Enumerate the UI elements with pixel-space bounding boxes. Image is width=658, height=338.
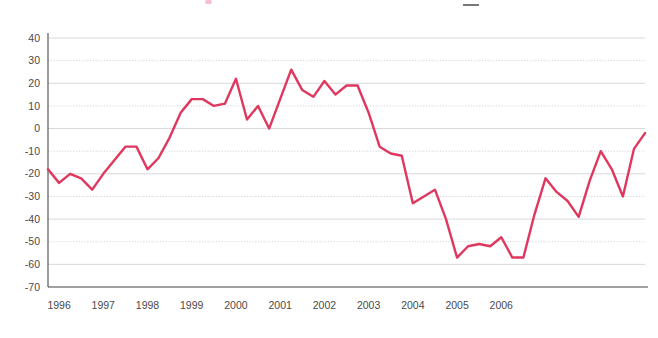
x-axis-tick-label: 1996 <box>47 299 71 311</box>
x-axis-tick-label: 1997 <box>92 299 116 311</box>
x-axis-tick-label: 2006 <box>490 299 514 311</box>
y-axis-tick-label: -50 <box>25 235 40 247</box>
x-axis-tick-label: 2004 <box>401 299 425 311</box>
y-axis-tick-label: -70 <box>25 281 40 293</box>
line-chart-plot: 403020100-10-20-30-40-50-60-70 199619971… <box>0 0 658 338</box>
y-axis-tick-label: 20 <box>28 77 40 89</box>
chart-container: 403020100-10-20-30-40-50-60-70 199619971… <box>0 0 658 338</box>
x-axis-tick-label: 1999 <box>180 299 204 311</box>
x-axis-tick-label: 1998 <box>136 299 160 311</box>
data-series-line <box>48 70 645 258</box>
x-axis-tick-label: 2000 <box>224 299 248 311</box>
y-axis-tick-label: -40 <box>25 213 40 225</box>
y-axis-tick-labels: 403020100-10-20-30-40-50-60-70 <box>25 32 40 293</box>
y-axis-tick-label: 30 <box>28 54 40 66</box>
x-axis-tick-labels: 1996199719981999200020012002200320042005… <box>47 299 513 311</box>
y-axis-tick-label: 40 <box>28 32 40 44</box>
x-axis-tick-label: 2003 <box>357 299 381 311</box>
x-axis-tick-label: 2001 <box>268 299 292 311</box>
x-axis-tick-label: 2002 <box>313 299 337 311</box>
y-axis-tick-label: 0 <box>34 122 40 134</box>
y-axis-tick-label: -10 <box>25 145 40 157</box>
gridlines-group <box>48 38 645 287</box>
y-axis-tick-label: 10 <box>28 100 40 112</box>
y-axis-tick-label: -20 <box>25 167 40 179</box>
y-axis-tick-label: -30 <box>25 190 40 202</box>
x-axis-tick-label: 2005 <box>445 299 469 311</box>
y-axis-tick-label: -60 <box>25 258 40 270</box>
